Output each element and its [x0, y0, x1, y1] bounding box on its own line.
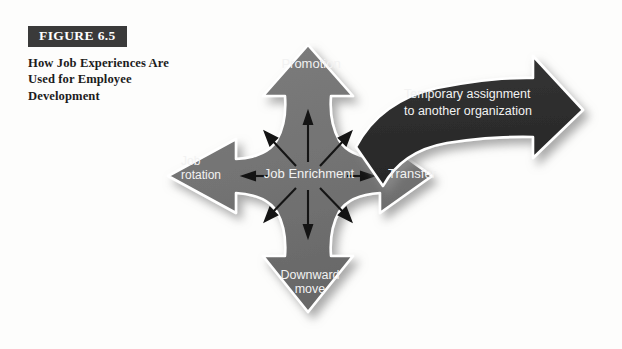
figure-page: FIGURE 6.5 How Job Experiences Are Used … — [0, 0, 622, 349]
cross-arrow-shape — [168, 45, 432, 312]
cross-arrow-path — [168, 45, 432, 312]
job-experiences-diagram — [0, 0, 622, 349]
temporary-assignment-arrow-path — [356, 56, 583, 186]
temporary-assignment-arrow — [356, 56, 583, 186]
